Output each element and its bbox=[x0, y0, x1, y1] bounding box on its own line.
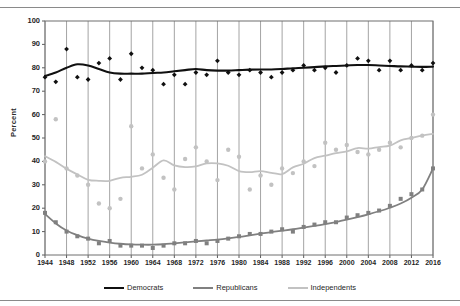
data-point bbox=[140, 65, 145, 70]
data-point bbox=[183, 82, 188, 87]
data-point bbox=[355, 56, 360, 61]
data-point bbox=[118, 197, 122, 201]
data-point bbox=[75, 75, 80, 80]
data-point bbox=[107, 206, 111, 210]
data-point bbox=[258, 173, 262, 177]
data-point bbox=[107, 56, 112, 61]
data-point bbox=[172, 72, 177, 77]
data-point bbox=[86, 183, 90, 187]
data-point bbox=[291, 171, 295, 175]
data-point bbox=[183, 157, 187, 161]
data-point bbox=[409, 192, 413, 196]
data-point bbox=[64, 47, 69, 52]
data-point bbox=[269, 183, 273, 187]
data-point bbox=[366, 152, 370, 156]
data-point bbox=[420, 68, 425, 73]
data-point bbox=[269, 75, 274, 80]
data-point bbox=[129, 51, 134, 56]
data-point bbox=[355, 150, 359, 154]
data-point bbox=[280, 166, 284, 170]
data-point bbox=[312, 68, 317, 73]
data-point bbox=[161, 176, 165, 180]
data-point bbox=[215, 178, 219, 182]
data-point bbox=[387, 58, 392, 63]
data-point bbox=[150, 68, 155, 73]
data-point bbox=[97, 201, 101, 205]
data-point bbox=[194, 145, 198, 149]
chart-legend: DemocratsRepublicansIndependents bbox=[0, 281, 460, 295]
data-point bbox=[205, 241, 209, 245]
chart-figure: Percent 0102030405060708090100 194419481… bbox=[0, 0, 460, 306]
data-point bbox=[161, 82, 166, 87]
legend-item-independents[interactable]: Independents bbox=[288, 284, 356, 292]
data-point bbox=[280, 70, 285, 75]
data-point bbox=[377, 68, 382, 73]
data-point bbox=[345, 143, 349, 147]
data-point bbox=[237, 72, 242, 77]
data-point bbox=[398, 145, 402, 149]
data-point bbox=[151, 152, 155, 156]
data-point bbox=[399, 197, 403, 201]
data-point bbox=[86, 77, 91, 82]
data-point bbox=[96, 61, 101, 66]
legend-label: Democrats bbox=[127, 284, 163, 292]
data-point bbox=[248, 187, 252, 191]
data-point bbox=[312, 164, 316, 168]
data-point bbox=[151, 246, 155, 250]
data-point bbox=[204, 72, 209, 77]
data-point bbox=[366, 58, 371, 63]
data-point bbox=[398, 68, 403, 73]
data-point bbox=[431, 61, 436, 66]
data-point bbox=[215, 58, 220, 63]
legend-item-republicans[interactable]: Republicans bbox=[193, 284, 257, 292]
legend-label: Republicans bbox=[216, 284, 257, 292]
legend-swatch-independents-icon bbox=[288, 287, 308, 289]
data-point bbox=[193, 70, 198, 75]
data-point bbox=[43, 159, 47, 163]
legend-item-democrats[interactable]: Democrats bbox=[104, 284, 163, 292]
data-point bbox=[323, 140, 327, 144]
data-point bbox=[258, 70, 263, 75]
legend-swatch-republicans-icon bbox=[193, 287, 213, 289]
data-point bbox=[54, 117, 58, 121]
data-point bbox=[129, 124, 133, 128]
data-point bbox=[237, 155, 241, 159]
legend-swatch-democrats-icon bbox=[104, 287, 124, 289]
data-point bbox=[226, 148, 230, 152]
data-point bbox=[172, 187, 176, 191]
data-point bbox=[140, 166, 144, 170]
data-point bbox=[334, 70, 339, 75]
bottom-divider bbox=[0, 300, 460, 301]
plot-area bbox=[0, 0, 460, 306]
data-point bbox=[118, 77, 123, 82]
data-point bbox=[53, 79, 58, 84]
data-point bbox=[431, 112, 435, 116]
legend-label: Independents bbox=[311, 284, 356, 292]
data-point bbox=[334, 148, 338, 152]
